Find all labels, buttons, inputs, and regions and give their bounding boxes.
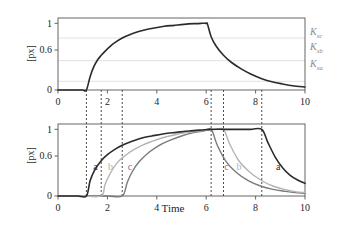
- top-panel-svg: 00.610246810: [0, 0, 346, 114]
- x-axis-title-text: Time: [162, 202, 185, 214]
- k-label-xb: Kxb: [310, 41, 323, 54]
- k-label-subscript: xb: [317, 47, 323, 54]
- bottom-panel: [px] 00.610246810 Time abccba: [0, 114, 346, 228]
- svg-text:6: 6: [204, 96, 209, 107]
- svg-text:0.6: 0.6: [40, 44, 53, 55]
- svg-text:8: 8: [253, 96, 258, 107]
- curve-label-b-1: b: [108, 161, 113, 172]
- top-panel: [px] 00.610246810 Kxc Kxb Kxa: [0, 0, 346, 114]
- top-panel-plot-area: 00.610246810: [0, 0, 346, 114]
- curve-label-b-4: b: [237, 161, 242, 172]
- svg-text:0.6: 0.6: [40, 150, 53, 161]
- svg-text:1: 1: [47, 18, 52, 29]
- k-label-xa: Kxa: [310, 58, 323, 71]
- k-label-subscript: xa: [317, 64, 323, 71]
- svg-text:0: 0: [56, 96, 61, 107]
- k-label-base: K: [310, 58, 317, 69]
- svg-text:0: 0: [47, 84, 52, 95]
- svg-text:0: 0: [47, 190, 52, 201]
- svg-text:10: 10: [300, 96, 310, 107]
- curve-label-a-5: a: [276, 161, 280, 172]
- curve-label-a-0: a: [93, 161, 97, 172]
- k-label-subscript: xc: [317, 32, 323, 39]
- figure-container: [px] 00.610246810 Kxc Kxb Kxa [px] 00.61…: [0, 0, 346, 228]
- k-label-xc: Kxc: [310, 26, 322, 39]
- curve-label-c-2: c: [128, 161, 132, 172]
- k-label-base: K: [310, 26, 317, 37]
- svg-text:1: 1: [47, 124, 52, 135]
- x-axis-title: Time: [0, 202, 346, 214]
- svg-text:2: 2: [105, 96, 110, 107]
- svg-text:4: 4: [154, 96, 159, 107]
- k-label-base: K: [310, 41, 317, 52]
- curve-label-c-3: c: [224, 161, 228, 172]
